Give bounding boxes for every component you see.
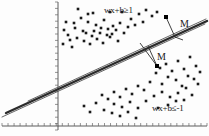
data-point-positive xyxy=(100,27,103,30)
data-point-positive xyxy=(73,22,76,25)
data-point-positive xyxy=(111,33,114,36)
data-point-negative xyxy=(119,115,122,118)
diagram-canvas: wx+b≥1 wx+b≤-1 M M xyxy=(0,0,209,136)
data-point-negative xyxy=(181,85,184,88)
data-point-negative xyxy=(101,94,104,97)
svm-margin-figure: wx+b≥1 wx+b≤-1 M M xyxy=(0,0,209,136)
data-point-positive xyxy=(130,18,133,21)
data-point-negative xyxy=(149,81,152,84)
data-point-negative xyxy=(107,98,110,101)
data-point-negative xyxy=(183,99,186,102)
data-point-positive xyxy=(87,21,90,24)
data-point-negative xyxy=(153,95,156,98)
data-point-negative xyxy=(185,87,188,90)
data-point-positive xyxy=(142,21,145,24)
data-point-positive xyxy=(123,32,126,35)
data-point-negative xyxy=(113,103,116,106)
data-point-negative xyxy=(187,75,190,78)
data-point-negative xyxy=(137,85,140,88)
data-point-positive xyxy=(67,34,70,37)
data-point-negative xyxy=(175,79,178,82)
data-point-negative xyxy=(125,88,128,91)
data-point-positive xyxy=(95,24,98,27)
data-point-negative xyxy=(95,102,98,105)
data-point-negative xyxy=(137,107,140,110)
data-point-positive xyxy=(96,38,99,41)
data-point-negative xyxy=(129,101,132,104)
support-vector-point xyxy=(164,15,168,19)
data-point-negative xyxy=(131,93,134,96)
data-point-positive xyxy=(112,25,115,28)
data-point-positive xyxy=(115,29,118,32)
data-point-negative xyxy=(167,76,170,79)
data-point-positive xyxy=(93,30,96,33)
support-vector-point xyxy=(155,64,159,68)
data-point-positive xyxy=(62,43,65,46)
data-point-negative xyxy=(169,96,172,99)
data-point-negative xyxy=(113,91,116,94)
positive-constraint-label: wx+b≥1 xyxy=(104,5,133,15)
data-point-positive xyxy=(92,12,95,15)
data-point-negative xyxy=(155,72,158,75)
data-point-positive xyxy=(71,46,74,49)
data-point-negative xyxy=(171,70,174,73)
data-point-positive xyxy=(109,36,112,39)
negative-constraint-label: wx+b≤-1 xyxy=(152,103,184,113)
data-point-positive xyxy=(91,35,94,38)
data-point-negative xyxy=(127,111,130,114)
data-point-positive xyxy=(74,27,77,30)
data-point-positive xyxy=(99,32,102,35)
data-point-positive xyxy=(127,26,130,29)
data-point-positive xyxy=(69,39,72,42)
data-point-negative xyxy=(103,109,106,112)
data-point-negative xyxy=(175,100,178,103)
data-point-negative xyxy=(177,60,180,63)
data-point-positive xyxy=(77,8,80,11)
data-point-negative xyxy=(159,67,162,70)
data-point-negative xyxy=(193,78,196,81)
data-point-negative xyxy=(121,106,124,109)
data-point-negative xyxy=(165,63,168,66)
data-point-positive xyxy=(106,34,109,37)
data-point-negative xyxy=(191,94,194,97)
data-point-positive xyxy=(138,13,141,16)
data-point-negative xyxy=(195,65,198,68)
data-point-negative xyxy=(189,56,192,59)
data-point-positive xyxy=(65,21,68,24)
data-point-negative xyxy=(161,83,164,86)
data-point-positive xyxy=(102,42,105,45)
data-point-negative xyxy=(143,89,146,92)
data-point-positive xyxy=(156,11,159,14)
data-point-negative xyxy=(197,83,200,86)
data-point-positive xyxy=(85,32,88,35)
data-point-negative xyxy=(89,111,92,114)
data-point-positive xyxy=(87,13,90,16)
data-point-negative xyxy=(119,96,122,99)
margin-upper-label: M xyxy=(180,18,189,29)
data-point-positive xyxy=(107,28,110,31)
data-point-negative xyxy=(145,100,148,103)
data-point-negative xyxy=(135,117,138,120)
data-point-negative xyxy=(111,112,114,115)
data-point-positive xyxy=(103,19,106,22)
data-point-positive xyxy=(83,40,86,43)
data-point-negative xyxy=(161,91,164,94)
data-point-positive xyxy=(76,37,79,40)
data-point-negative xyxy=(177,92,180,95)
data-point-positive xyxy=(89,43,92,46)
data-point-negative xyxy=(199,71,202,74)
data-point-positive xyxy=(145,9,148,12)
data-point-negative xyxy=(83,105,86,108)
data-point-positive xyxy=(82,30,85,33)
data-point-positive xyxy=(117,40,120,43)
data-point-positive xyxy=(119,22,122,25)
data-point-positive xyxy=(80,17,83,20)
data-point-positive xyxy=(63,29,66,32)
margin-lower-label: M xyxy=(157,51,166,62)
data-point-positive xyxy=(134,24,137,27)
data-point-negative xyxy=(183,68,186,71)
data-point-positive xyxy=(151,15,154,18)
